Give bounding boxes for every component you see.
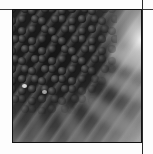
pollen-highlight	[22, 84, 27, 88]
right-vertical-rule	[142, 0, 143, 154]
photo-frame	[12, 9, 142, 143]
pollen-highlight	[42, 90, 47, 94]
page-canvas	[0, 0, 153, 154]
floret-cluster	[12, 9, 117, 114]
